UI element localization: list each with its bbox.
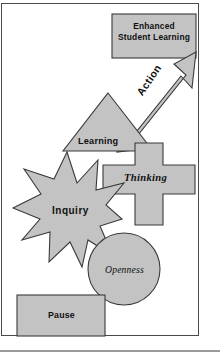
- label-pause: Pause: [48, 310, 75, 320]
- label-goal-line2: Student Learning: [118, 32, 190, 42]
- page-canvas: Enhanced Student Learning Action Learnin…: [0, 0, 220, 361]
- label-openness: Openness: [105, 264, 144, 275]
- label-goal-line1: Enhanced: [133, 21, 175, 31]
- diagram-graphics: [0, 0, 220, 361]
- label-inquiry: Inquiry: [52, 205, 89, 216]
- label-enhanced-student-learning: Enhanced Student Learning: [113, 21, 195, 43]
- label-thinking: Thinking: [124, 172, 167, 183]
- label-learning: Learning: [78, 136, 118, 146]
- footer-divider: [0, 350, 220, 352]
- shape-thinking-cross: [103, 143, 195, 225]
